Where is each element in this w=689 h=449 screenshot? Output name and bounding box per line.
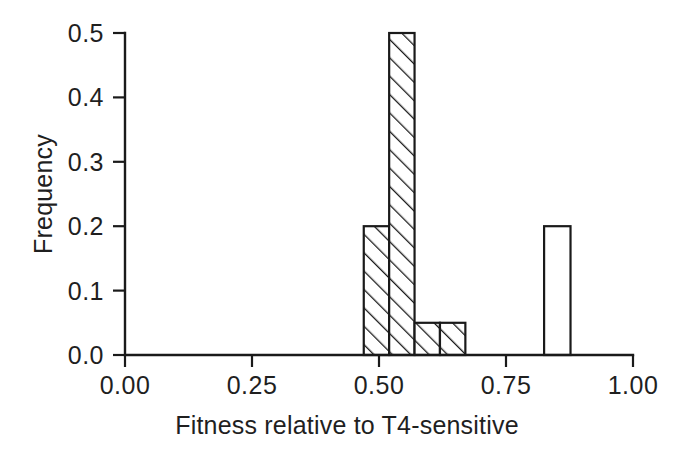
y-axis-ticks [113, 33, 125, 355]
y-tick-label: 0.3 [68, 148, 104, 176]
x-tick-label: 0.50 [354, 371, 405, 399]
x-tick-label: 1.00 [608, 371, 659, 399]
x-tick-label: 0.00 [100, 371, 151, 399]
histogram-bar [364, 226, 389, 355]
x-tick-label: 0.75 [481, 371, 532, 399]
y-tick-label: 0.2 [68, 212, 104, 240]
y-tick-label: 0.1 [68, 277, 104, 305]
chart-canvas: 0.00.10.20.30.40.5 0.000.250.500.751.00 … [0, 0, 689, 449]
y-axis-tick-labels: 0.00.10.20.30.40.5 [68, 19, 104, 369]
x-axis-title: Fitness relative to T4-sensitive [175, 411, 519, 439]
y-tick-label: 0.0 [68, 341, 104, 369]
histogram-figure: 0.00.10.20.30.40.5 0.000.250.500.751.00 … [0, 0, 689, 449]
histogram-bar [415, 323, 440, 355]
y-tick-label: 0.4 [68, 83, 104, 111]
histogram-bar [389, 33, 414, 355]
histogram-bar [440, 323, 465, 355]
y-tick-label: 0.5 [68, 19, 104, 47]
x-tick-label: 0.25 [227, 371, 278, 399]
histogram-bar [544, 226, 570, 355]
x-axis-tick-labels: 0.000.250.500.751.00 [100, 371, 659, 399]
x-axis-ticks [125, 355, 633, 367]
y-axis-title: Frequency [29, 134, 57, 254]
